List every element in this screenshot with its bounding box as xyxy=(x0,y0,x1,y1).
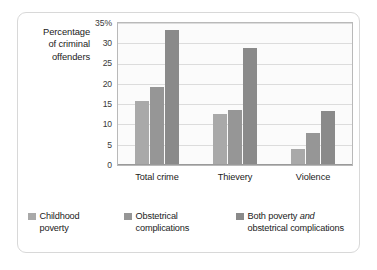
legend-swatch-icon xyxy=(124,213,132,221)
legend-label: Childhoodpoverty xyxy=(40,211,121,234)
bar xyxy=(321,111,336,164)
bar-group xyxy=(274,22,352,164)
y-tick-label: 15 xyxy=(78,99,112,109)
y-tick-label: 10 xyxy=(78,119,112,129)
y-tick-label: 20 xyxy=(78,79,112,89)
bar xyxy=(150,87,165,164)
bar xyxy=(213,114,228,164)
legend-label: Both poverty andobstetrical complication… xyxy=(248,211,357,234)
legend-label-line-1: Childhood xyxy=(40,211,80,221)
x-axis-baseline xyxy=(118,164,352,165)
legend-label-emphasis: and xyxy=(300,211,315,221)
legend-swatch-icon xyxy=(236,213,244,221)
bar-group xyxy=(118,22,196,164)
y-tick-label: 25 xyxy=(78,58,112,68)
legend-item[interactable]: Childhoodpoverty xyxy=(28,211,120,234)
legend-label-line-2: poverty xyxy=(40,223,69,233)
bar-group xyxy=(196,22,274,164)
y-axis-title-line-1: Percentage xyxy=(8,26,90,38)
legend-item[interactable]: Obstetricalcomplications xyxy=(124,211,232,234)
y-tick-label: 0 xyxy=(78,160,112,170)
legend-swatch-icon xyxy=(28,213,36,221)
x-tick-label: Violence xyxy=(274,172,352,182)
y-tick-label: 35% xyxy=(78,18,112,28)
bar xyxy=(228,110,243,164)
x-tick-label: Total crime xyxy=(118,172,196,182)
legend-label: Obstetricalcomplications xyxy=(136,211,233,234)
y-tick-label: 5 xyxy=(78,140,112,150)
bar xyxy=(291,149,306,164)
legend-label-line-1: Both poverty and xyxy=(248,211,315,221)
bar xyxy=(165,30,180,164)
bar xyxy=(243,48,258,164)
chart-figure: Percentage of criminal offenders 35%3025… xyxy=(0,0,377,270)
plot-area xyxy=(117,22,353,166)
y-tick-label: 30 xyxy=(78,38,112,48)
x-tick-label: Thievery xyxy=(196,172,274,182)
legend-label-line-1: Obstetrical xyxy=(136,211,178,221)
bar xyxy=(135,101,150,164)
bar xyxy=(306,133,321,164)
legend-label-line-2: obstetrical complications xyxy=(248,223,344,233)
legend-item[interactable]: Both poverty andobstetrical complication… xyxy=(236,211,356,234)
legend-label-line-2: complications xyxy=(136,223,190,233)
